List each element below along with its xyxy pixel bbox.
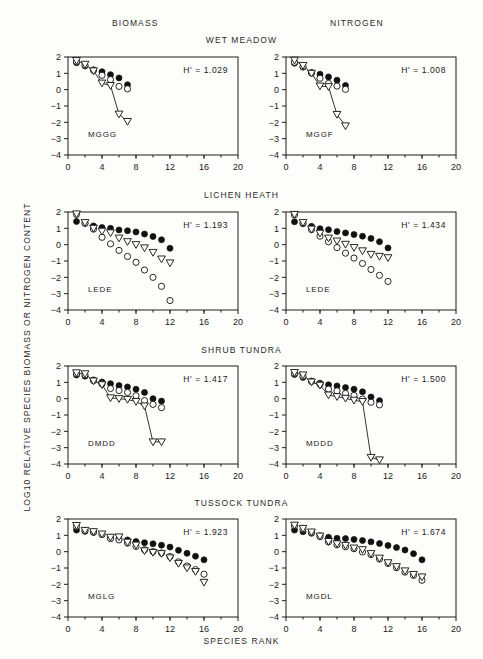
y-tick-label: 1 xyxy=(274,531,279,541)
y-tick-label: −3 xyxy=(269,443,279,453)
figure-scientific-plot-grid: BIOMASS NITROGEN WET MEADOW LICHEN HEATH… xyxy=(0,0,483,659)
data-point-open-triangle xyxy=(350,245,358,252)
data-point-open-circle xyxy=(107,241,113,247)
data-point-filled-circle xyxy=(193,553,199,559)
data-point-open-triangle xyxy=(132,242,140,249)
x-tick-label: 20 xyxy=(451,317,461,327)
y-tick-label: −3 xyxy=(269,289,279,299)
y-tick-label: −2 xyxy=(51,427,61,437)
plot-code-label: MGGG xyxy=(88,130,117,139)
y-tick-label: −1 xyxy=(269,410,279,420)
x-tick-label: 4 xyxy=(99,162,104,172)
x-tick-label: 0 xyxy=(65,624,70,634)
y-tick-label: 0 xyxy=(274,547,279,557)
y-tick-label: −3 xyxy=(51,289,61,299)
data-point-open-triangle xyxy=(376,253,384,260)
y-tick-label: 2 xyxy=(274,514,279,524)
data-point-filled-circle xyxy=(334,229,340,235)
y-tick-label: 0 xyxy=(56,85,61,95)
y-tick-label: 2 xyxy=(274,52,279,62)
x-tick-label: 8 xyxy=(351,471,356,481)
data-point-open-triangle xyxy=(107,230,115,237)
y-tick-label: −1 xyxy=(51,563,61,573)
data-point-filled-circle xyxy=(360,233,366,239)
data-point-open-triangle xyxy=(200,579,208,586)
x-tick-label: 20 xyxy=(233,162,243,172)
plot-panel-mgdl-7: 048121620210−1−2−3−4H' = 1.674MGDL xyxy=(286,519,470,639)
x-tick-label: 4 xyxy=(317,471,322,481)
data-point-open-circle xyxy=(124,86,130,92)
data-point-open-triangle xyxy=(359,248,367,255)
data-point-filled-circle xyxy=(142,389,148,395)
data-point-open-triangle xyxy=(149,249,157,256)
y-tick-label: −1 xyxy=(51,256,61,266)
y-tick-label: −2 xyxy=(51,580,61,590)
y-tick-label: 2 xyxy=(56,514,61,524)
plot-code-label: MDDD xyxy=(306,439,334,448)
data-point-open-circle xyxy=(325,386,331,392)
data-point-open-circle xyxy=(368,399,374,405)
plot-panel-dmdd-4: 048121620210−1−2−3−4H' = 1.417DMDD xyxy=(68,366,252,486)
y-tick-label: −2 xyxy=(51,118,61,128)
x-tick-label: 4 xyxy=(317,624,322,634)
data-point-open-triangle xyxy=(367,251,375,258)
x-tick-label: 12 xyxy=(383,317,393,327)
data-point-open-circle xyxy=(133,393,139,399)
data-point-filled-circle xyxy=(74,218,80,224)
data-point-filled-circle xyxy=(184,550,190,556)
data-point-filled-circle xyxy=(326,74,332,80)
data-point-open-circle xyxy=(116,387,122,393)
y-tick-label: −2 xyxy=(269,273,279,283)
x-tick-label: 4 xyxy=(317,162,322,172)
y-tick-label: 1 xyxy=(274,378,279,388)
plot-panel-mddd-5: 048121620210−1−2−3−4H' = 1.500MDDD xyxy=(286,366,470,486)
y-tick-label: −3 xyxy=(269,134,279,144)
data-point-filled-circle xyxy=(176,547,182,553)
x-tick-label: 12 xyxy=(165,162,175,172)
data-point-open-circle xyxy=(150,401,156,407)
x-tick-label: 20 xyxy=(451,471,461,481)
row-header-tussock-tundra: TUSSOCK TUNDRA xyxy=(0,498,483,508)
data-point-filled-circle xyxy=(343,385,349,391)
data-point-open-circle xyxy=(167,297,173,303)
h-prime-annotation: H' = 1.193 xyxy=(183,220,228,230)
x-tick-label: 12 xyxy=(383,471,393,481)
y-tick-label: 0 xyxy=(56,394,61,404)
data-point-filled-circle xyxy=(159,237,165,243)
column-header-nitrogen: NITROGEN xyxy=(330,18,384,28)
y-tick-label: 2 xyxy=(56,207,61,217)
row-header-wet-meadow: WET MEADOW xyxy=(0,35,483,45)
data-point-filled-circle xyxy=(343,230,349,236)
data-point-filled-circle xyxy=(394,545,400,551)
y-tick-label: −4 xyxy=(51,150,61,160)
y-tick-label: 0 xyxy=(274,85,279,95)
data-point-open-circle xyxy=(124,253,130,259)
row-header-lichen-heath: LICHEN HEATH xyxy=(0,190,483,200)
data-point-filled-circle xyxy=(142,231,148,237)
data-point-open-triangle xyxy=(333,111,341,118)
data-point-filled-circle xyxy=(133,386,139,392)
x-tick-label: 4 xyxy=(317,317,322,327)
x-tick-label: 8 xyxy=(133,624,138,634)
plot-code-label: DMDD xyxy=(88,439,116,448)
x-tick-label: 4 xyxy=(99,317,104,327)
data-point-open-circle xyxy=(359,260,365,266)
x-tick-label: 12 xyxy=(383,162,393,172)
x-tick-label: 8 xyxy=(351,162,356,172)
data-point-filled-circle xyxy=(159,542,165,548)
y-tick-label: 1 xyxy=(56,378,61,388)
data-point-open-triangle xyxy=(166,260,174,267)
plot-code-label: MGLG xyxy=(88,592,115,601)
data-point-filled-circle xyxy=(116,75,122,81)
data-point-open-triangle xyxy=(376,457,384,464)
data-point-filled-circle xyxy=(411,551,417,557)
data-point-open-circle xyxy=(376,272,382,278)
x-tick-label: 0 xyxy=(65,471,70,481)
data-point-filled-circle xyxy=(385,542,391,548)
y-tick-label: 1 xyxy=(56,531,61,541)
y-tick-label: 0 xyxy=(56,240,61,250)
data-point-filled-circle xyxy=(167,245,173,251)
y-tick-label: 2 xyxy=(274,207,279,217)
y-tick-label: −4 xyxy=(51,305,61,315)
data-point-open-triangle xyxy=(192,569,200,576)
